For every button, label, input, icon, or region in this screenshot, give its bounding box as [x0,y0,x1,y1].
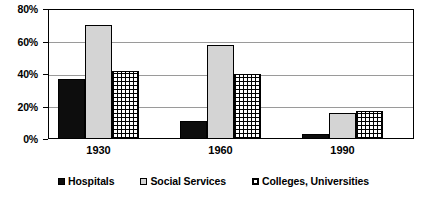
legend-swatch-icon [140,178,147,185]
bar-1990-hospitals [302,134,329,139]
y-tick-label-0: 0% [23,133,38,145]
bar-1990-colleges-universities [356,111,383,139]
bar-1960-colleges-universities [234,74,261,139]
y-tick-mark-0 [43,139,48,140]
bar-1930-hospitals [58,79,85,139]
legend-item-hospitals[interactable]: Hospitals [58,175,114,187]
bars-layer [48,9,414,139]
legend: HospitalsSocial ServicesColleges, Univer… [0,175,427,187]
bar-1930-colleges-universities [112,71,139,139]
y-axis: 80% 60% 40% 20% 0% [0,0,44,148]
bar-chart: 80% 60% 40% 20% 0% 193019601990 Hospital… [0,0,427,200]
legend-item-social-services[interactable]: Social Services [140,175,226,187]
y-tick-label-40: 40% [18,68,38,80]
bar-1990-social-services [329,113,356,139]
legend-label: Hospitals [68,175,114,187]
legend-item-colleges-universities[interactable]: Colleges, Universities [252,175,369,187]
legend-label: Colleges, Universities [262,175,369,187]
bar-1960-social-services [207,45,234,139]
y-tick-label-20: 20% [18,101,38,113]
bar-1960-hospitals [180,121,207,139]
legend-swatch-icon [58,178,65,185]
y-tick-label-60: 60% [18,36,38,48]
x-tick-label-1960: 1960 [208,144,232,156]
y-tick-label-80: 80% [18,3,38,15]
legend-label: Social Services [150,175,226,187]
bar-1930-social-services [85,25,112,139]
x-tick-label-1990: 1990 [330,144,354,156]
x-axis: 193019601990 [48,144,414,164]
x-tick-label-1930: 1930 [86,144,110,156]
legend-swatch-icon [252,178,259,185]
